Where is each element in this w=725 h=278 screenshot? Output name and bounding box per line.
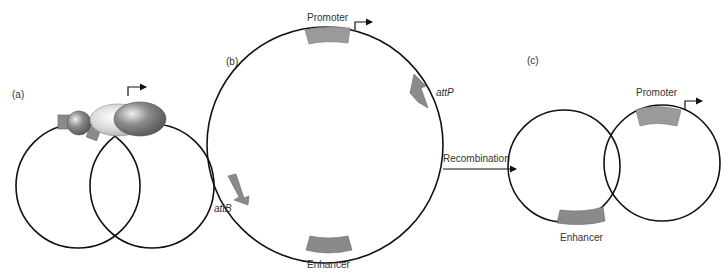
rna-polymerase: [114, 102, 166, 136]
diagram-canvas: (a) (b) Promoter attP attB Enhancer Reco…: [0, 0, 725, 278]
promoter-label: Promoter: [307, 12, 349, 23]
dna-loop-left: [16, 124, 140, 248]
enhancer-block: [306, 236, 352, 253]
enhancer-label: Enhancer: [307, 259, 350, 270]
dna-loop-enhancer: [508, 110, 620, 222]
plasmid-circle: [207, 27, 443, 263]
recombination-label: Recombination: [443, 153, 510, 164]
promoter-block: [305, 27, 350, 44]
enhancer-block: [557, 207, 605, 225]
panel-a: (a): [12, 87, 214, 248]
panel-c-label: (c): [527, 55, 539, 66]
transcription-start-arrow-icon: [685, 101, 702, 109]
promoter-label: Promoter: [636, 87, 678, 98]
panel-b-label: (b): [226, 56, 238, 67]
recombination-arrow: Recombination: [443, 153, 516, 169]
transcription-start-arrow-icon: [128, 87, 146, 96]
transcription-start-arrow-icon: [355, 22, 372, 30]
panel-b: (b) Promoter attP attB Enhancer: [207, 12, 454, 270]
attP-site-arrow-icon: [410, 74, 428, 108]
activator-protein: [67, 111, 91, 135]
attB-label: attB: [214, 203, 232, 214]
dna-loop-right: [90, 124, 214, 248]
promoter-block: [636, 107, 681, 127]
panel-c: (c) Promoter Enhancer: [508, 55, 720, 243]
attP-label: attP: [436, 87, 454, 98]
attB-site-arrow-icon: [228, 174, 249, 205]
panel-a-label: (a): [12, 89, 24, 100]
enhancer-label: Enhancer: [560, 232, 603, 243]
